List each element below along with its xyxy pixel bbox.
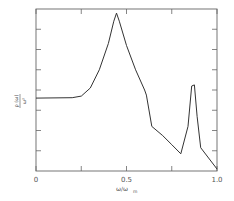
- y-axis-title: ρ (ω) ω²: [13, 94, 27, 108]
- x-tick-label-1.0: 1.0: [211, 176, 222, 184]
- x-axis-title: ω/ω m: [116, 185, 137, 194]
- x-tick-label-0.5: 0.5: [121, 176, 132, 184]
- svg-text:ω/ω: ω/ω: [116, 185, 128, 192]
- plot-frame: [36, 9, 217, 171]
- spectrum-curve: [36, 13, 217, 169]
- x-axis-ticks: [36, 9, 217, 171]
- y-axis-ticks: [36, 29, 217, 151]
- svg-text:ρ (ω): ρ (ω): [13, 95, 20, 108]
- density-of-states-chart: 0 0.5 1.0 ω/ω m ρ (ω) ω²: [0, 0, 234, 201]
- x-tick-label-0: 0: [34, 176, 38, 184]
- svg-text:m: m: [133, 189, 137, 194]
- svg-text:ω²: ω²: [21, 98, 27, 104]
